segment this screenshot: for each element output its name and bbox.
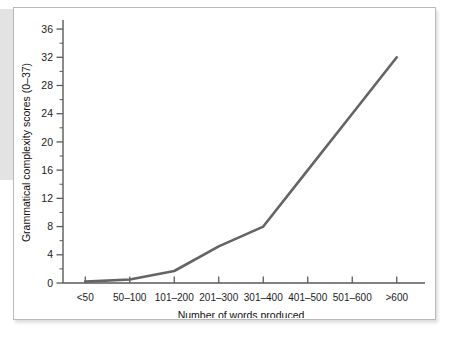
- x-tick-label: 501–600: [333, 292, 372, 303]
- x-tick-label: >600: [385, 292, 408, 303]
- y-tick-label: 24: [41, 107, 53, 119]
- x-tick-label: 101–200: [155, 292, 194, 303]
- y-tick-label: 0: [47, 277, 53, 289]
- y-axis-title: Grammatical complexity scores (0–37): [20, 63, 32, 242]
- x-tick-label: <50: [77, 292, 94, 303]
- y-tick-label: 8: [47, 220, 53, 232]
- chart-plot-area: 04812162024283236 <5050–100101–200201–30…: [14, 8, 435, 319]
- y-tick-label: 16: [41, 164, 53, 176]
- x-tick-label: 201–300: [199, 292, 238, 303]
- x-tick-label: 50–100: [113, 292, 147, 303]
- y-tick-label: 32: [41, 51, 53, 63]
- y-tick-label: 4: [47, 248, 53, 260]
- line-chart: 04812162024283236 <5050–100101–200201–30…: [14, 8, 434, 318]
- chart-frame: 04812162024283236 <5050–100101–200201–30…: [13, 7, 436, 320]
- series-polyline: [85, 57, 397, 281]
- x-tick-label: 401–500: [288, 292, 327, 303]
- x-tick-label: 301–400: [244, 292, 283, 303]
- y-tick-label: 20: [41, 136, 53, 148]
- x-axis-title: Number of words produced: [178, 309, 305, 318]
- figure-page: 04812162024283236 <5050–100101–200201–30…: [0, 0, 455, 338]
- data-series-line: [85, 57, 397, 281]
- y-tick-label: 12: [41, 192, 53, 204]
- y-tick-label: 28: [41, 79, 53, 91]
- y-tick-label: 36: [41, 23, 53, 35]
- y-axis: 04812162024283236: [41, 20, 63, 289]
